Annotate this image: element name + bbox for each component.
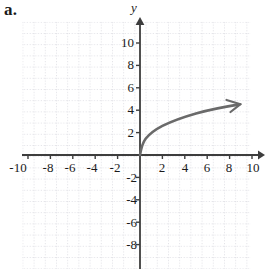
y-tick-label: -6 (126, 215, 137, 230)
y-tick-label: 2 (128, 125, 135, 140)
x-axis-arrow (258, 151, 265, 160)
x-tick-label: 10 (247, 160, 260, 175)
x-tick-label: -2 (110, 160, 121, 175)
y-tick-label: 10 (121, 35, 134, 50)
graph-figure: a. y (0, 0, 266, 269)
x-tick-label: 8 (226, 160, 233, 175)
y-tick-label: -2 (126, 170, 137, 185)
x-tick-label: -8 (43, 160, 54, 175)
y-axis-arrow (136, 17, 145, 25)
x-tick-label: -10 (9, 160, 26, 175)
x-tick-label: 4 (182, 160, 189, 175)
x-tick-label: 2 (159, 160, 166, 175)
y-tick-label: 6 (128, 80, 135, 95)
coordinate-plane: -10 -8 -6 -4 -2 2 4 6 8 10 10 8 6 4 2 -2… (0, 0, 266, 269)
y-tick-label: -4 (126, 192, 137, 207)
x-tick-label: -6 (65, 160, 76, 175)
grid-lines (22, 22, 250, 269)
x-tick-label: 6 (204, 160, 211, 175)
y-tick-label: 4 (128, 102, 135, 117)
y-tick-label: -8 (126, 237, 137, 252)
x-tick-label: -4 (87, 160, 98, 175)
y-tick-label: 8 (128, 57, 135, 72)
